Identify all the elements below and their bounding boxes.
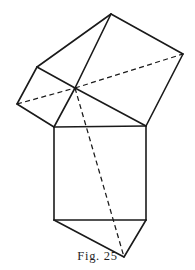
edge-rect-top [54, 126, 146, 127]
geometry-drawing [0, 0, 195, 270]
figure-caption: Fig. 25 [0, 249, 195, 264]
figure-illustration: Fig. 25 [0, 0, 195, 270]
